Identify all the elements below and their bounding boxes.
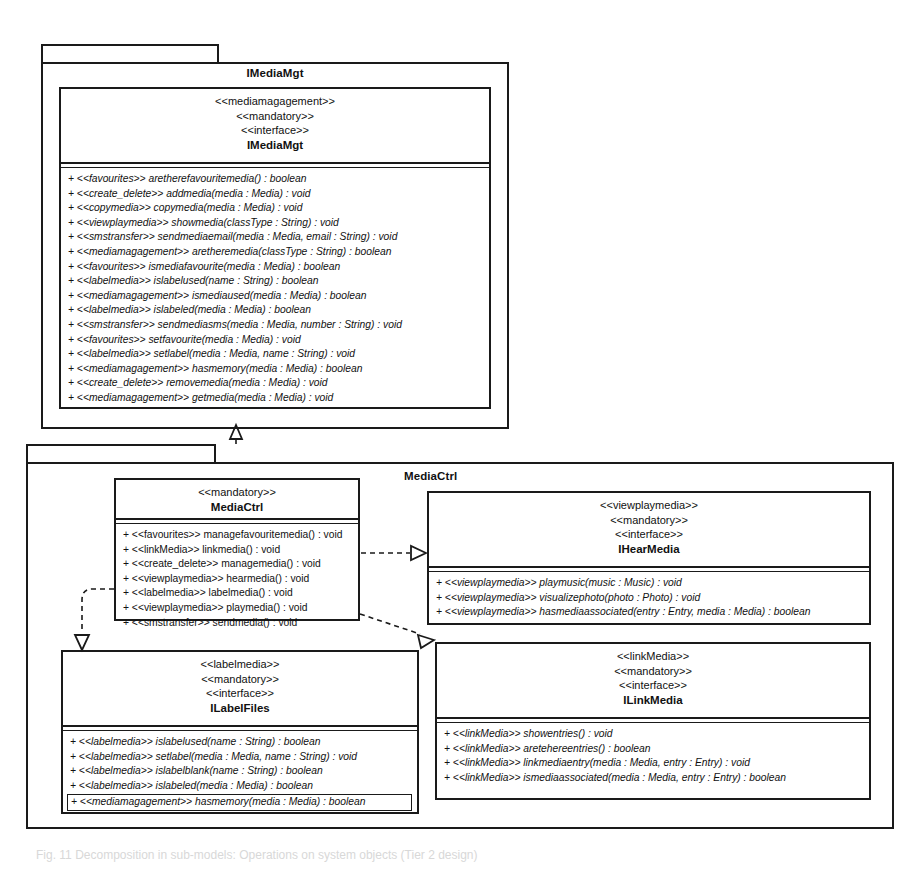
diagram-canvas: IMediaMgt <<mediamagagement>> <<mandator… <box>0 0 911 870</box>
hollow-triangle-arrow-ihearmedia <box>411 546 426 560</box>
hollow-triangle-arrow-ilabelfiles <box>75 635 89 650</box>
realization-line-ilabelfiles <box>82 589 114 633</box>
relationship-connectors <box>0 0 911 870</box>
realization-line-ilinkmedia <box>360 614 420 634</box>
hollow-triangle-arrow-imediamgt <box>230 425 242 439</box>
hollow-triangle-arrow-ilinkmedia <box>418 635 434 648</box>
figure-caption: Fig. 11 Decomposition in sub-models: Ope… <box>36 848 478 862</box>
